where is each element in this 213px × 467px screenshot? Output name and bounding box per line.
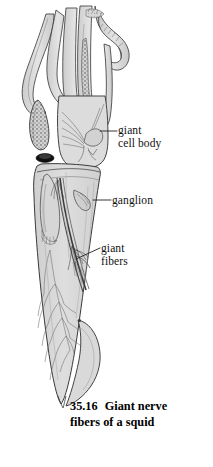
label-giant-fibers: giantfibers bbox=[101, 242, 128, 267]
label-giant-cell-body-line2: cell body bbox=[118, 137, 161, 149]
dark-pigment-cap bbox=[36, 154, 54, 163]
figure-35-16: giantcell body ganglion giantfibers 35.1… bbox=[0, 0, 213, 467]
label-ganglion: ganglion bbox=[112, 194, 153, 207]
label-giant-cell-body: giantcell body bbox=[118, 124, 161, 149]
label-ganglion-line1: ganglion bbox=[112, 194, 153, 206]
giant-cell-body-region bbox=[58, 96, 109, 169]
figure-caption: 35.16Giant nervefibers of a squid bbox=[70, 399, 213, 430]
figure-number: 35.16 bbox=[70, 399, 98, 413]
fin-attachment-node bbox=[78, 319, 81, 322]
label-giant-fibers-line1: giant bbox=[101, 242, 125, 254]
figure-title-line1: Giant nerve bbox=[105, 399, 168, 413]
arm-nerve-right-hook bbox=[99, 14, 130, 70]
squid-nerve-illustration bbox=[0, 0, 213, 467]
figure-title-line2: fibers of a squid bbox=[70, 415, 154, 429]
label-giant-cell-body-line1: giant bbox=[118, 124, 142, 136]
label-giant-fibers-line2: fibers bbox=[101, 255, 128, 267]
stellate-ganglion-oval bbox=[30, 100, 49, 150]
